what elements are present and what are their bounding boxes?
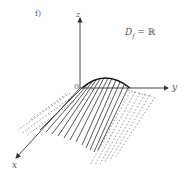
x-axis [16, 88, 80, 158]
surface-hatching [40, 78, 128, 152]
origin-label: 0 [74, 82, 79, 91]
domain-label: Df = ℝ [125, 27, 155, 39]
domain-rest: = ℝ [134, 27, 155, 37]
panel-label: f) [35, 9, 41, 18]
surface-diagram [0, 0, 187, 177]
x-axis-label: x [12, 160, 17, 170]
z-axis-label: z [76, 10, 80, 19]
y-axis-label: y [172, 82, 177, 92]
